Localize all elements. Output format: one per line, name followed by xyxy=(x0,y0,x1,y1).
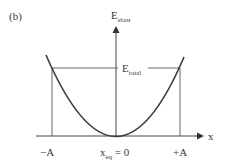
diagram-canvas xyxy=(0,0,227,162)
etotal-label-sub: total xyxy=(129,69,141,77)
etotal-label-main: E xyxy=(122,62,129,74)
energy-parabola xyxy=(46,55,184,137)
etotal-label: Etotal xyxy=(121,63,142,74)
tick-equilibrium: xeq = 0 xyxy=(100,147,129,158)
panel-label: (b) xyxy=(9,11,22,22)
tick-plus-a: +A xyxy=(173,147,187,158)
y-axis-label-main: E xyxy=(111,9,118,21)
tick-equilibrium-value: = 0 xyxy=(112,146,129,158)
tick-equilibrium-main: x xyxy=(100,146,106,158)
tick-minus-a: −A xyxy=(40,147,54,158)
energy-diagram: (b) Eelast Etotal x −A xeq = 0 +A xyxy=(0,0,227,162)
x-axis-label: x xyxy=(208,131,214,142)
y-axis-label: Eelast xyxy=(111,10,131,21)
x-axis-arrow-icon xyxy=(197,133,204,140)
tick-equilibrium-sub: eq xyxy=(106,153,113,161)
y-axis-arrow-icon xyxy=(113,26,120,33)
y-axis-label-sub: elast xyxy=(118,16,131,24)
